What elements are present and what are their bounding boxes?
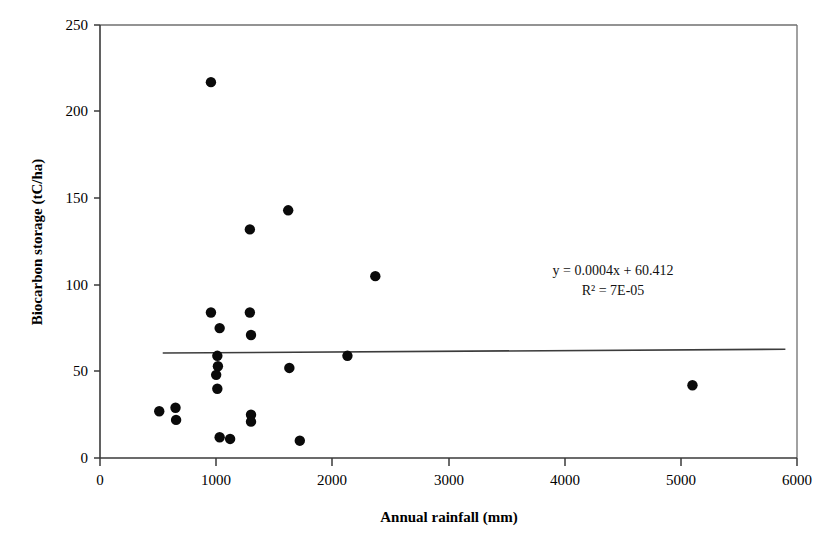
x-axis-title: Annual rainfall (mm) — [380, 509, 518, 526]
r-squared-label: R² = 7E-05 — [582, 283, 645, 298]
y-tick-label-150: 150 — [66, 190, 89, 206]
data-point — [687, 380, 697, 390]
data-point — [211, 370, 221, 380]
x-tick-label-3000: 3000 — [434, 472, 464, 488]
data-point — [206, 307, 216, 317]
x-tick-label-2000: 2000 — [317, 472, 347, 488]
chart-figure: 0 50 100 150 200 250 0 1000 2000 3000 40… — [0, 0, 829, 557]
data-point — [342, 351, 352, 361]
data-point — [246, 416, 256, 426]
data-point — [214, 432, 224, 442]
data-point — [213, 361, 223, 371]
data-point — [212, 351, 222, 361]
x-tick-label-6000: 6000 — [782, 472, 812, 488]
data-point — [212, 384, 222, 394]
x-axis-tick-labels: 0 1000 2000 3000 4000 5000 6000 — [96, 472, 812, 488]
data-point — [246, 330, 256, 340]
regression-equation-label: y = 0.0004x + 60.412 — [553, 263, 674, 278]
data-point — [245, 307, 255, 317]
x-tick-label-0: 0 — [96, 472, 104, 488]
scatter-plot-svg: 0 50 100 150 200 250 0 1000 2000 3000 40… — [0, 0, 829, 557]
y-tick-label-0: 0 — [81, 450, 89, 466]
data-points-group — [154, 77, 698, 446]
x-tick-label-1000: 1000 — [201, 472, 231, 488]
data-point — [214, 323, 224, 333]
x-tick-label-5000: 5000 — [666, 472, 696, 488]
data-point — [206, 77, 216, 87]
x-tick-label-4000: 4000 — [550, 472, 580, 488]
data-point — [154, 406, 164, 416]
data-point — [225, 434, 235, 444]
y-axis-ticks — [94, 25, 100, 458]
data-point — [295, 435, 305, 445]
data-point — [370, 271, 380, 281]
y-tick-label-100: 100 — [66, 277, 89, 293]
data-point — [245, 224, 255, 234]
y-tick-label-200: 200 — [66, 103, 89, 119]
data-point — [283, 205, 293, 215]
data-point — [284, 363, 294, 373]
data-point — [171, 415, 181, 425]
x-axis-ticks — [100, 458, 797, 466]
y-axis-tick-labels: 0 50 100 150 200 250 — [66, 17, 89, 466]
y-axis-title: Biocarbon storage (tC/ha) — [29, 159, 46, 326]
trend-line — [163, 349, 786, 353]
data-point — [170, 403, 180, 413]
y-tick-label-250: 250 — [66, 17, 89, 33]
y-tick-label-50: 50 — [73, 363, 88, 379]
